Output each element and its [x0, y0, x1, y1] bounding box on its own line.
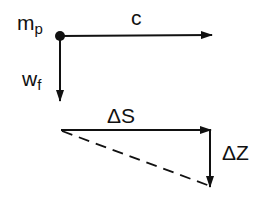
- mass-label: mp: [17, 11, 43, 37]
- vector-diagram: mp c wf ΔS ΔZ: [0, 0, 263, 198]
- fall-label: wf: [21, 67, 42, 93]
- velocity-arrow: [60, 35, 212, 36]
- resultant-dashed-line: [62, 131, 210, 186]
- velocity-label: c: [131, 6, 142, 29]
- delta-z-label: ΔZ: [222, 141, 249, 164]
- delta-s-label: ΔS: [107, 104, 135, 127]
